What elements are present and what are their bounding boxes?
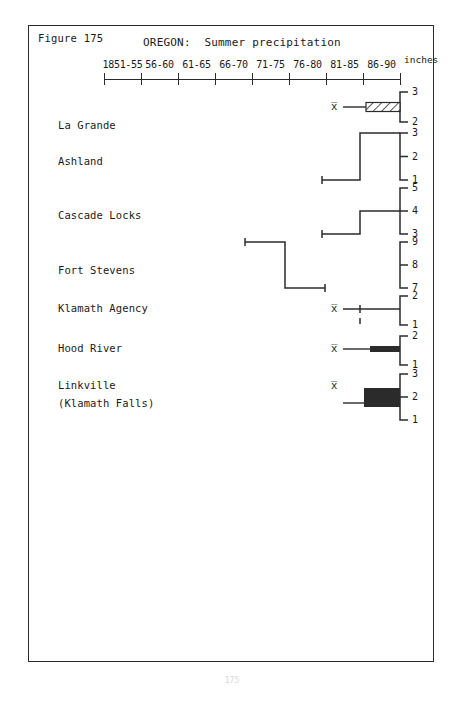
series-label: Cascade Locks [58,210,141,221]
axis-tick-label: 81-85 [324,60,365,70]
scale-value: 4 [412,206,418,216]
scale-value: 9 [412,237,418,247]
scale-value: 1 [412,415,418,425]
mean-marker: x̅ [331,303,337,314]
scale-value: 2 [412,117,418,127]
page-number: 175 [0,676,464,685]
series-label: Linkville [58,380,116,391]
mean-marker: x̅ [331,101,337,112]
axis-tick-label: 76-80 [287,60,328,70]
series-label: Hood River [58,343,122,354]
scale-value: 2 [412,291,418,301]
scale-value: 8 [412,260,418,270]
series-label: Klamath Agency [58,303,148,314]
units-label: inches [404,55,438,65]
figure-page: Figure 175 OREGON: Summer precipitation … [0,0,464,704]
series-label: Fort Stevens [58,265,135,276]
axis-tick [178,73,179,85]
mean-marker: x̅ [331,380,337,391]
series-label: La Grande [58,120,116,131]
series-label: Ashland [58,156,103,167]
axis-tick-label: 86-90 [361,60,402,70]
axis-tick [326,73,327,85]
axis-tick-label: 1851-55 [102,60,143,70]
scale-value: 3 [412,87,418,97]
scale-value: 5 [412,183,418,193]
axis-tick [104,73,105,85]
scale-value: 2 [412,392,418,402]
scale-value: 2 [412,152,418,162]
axis-tick [215,73,216,85]
axis-tick [252,73,253,85]
axis-tick-label: 56-60 [139,60,180,70]
scale-value: 3 [412,128,418,138]
figure-label: Figure 175 [38,33,103,44]
axis-tick [289,73,290,85]
axis-tick [141,73,142,85]
axis-tick [363,73,364,85]
axis-tick-label: 71-75 [250,60,291,70]
series-label-secondary: (Klamath Falls) [58,398,154,409]
scale-value: 3 [412,369,418,379]
scale-value: 2 [412,331,418,341]
scale-value: 1 [412,320,418,330]
axis-tick [400,73,401,85]
axis-tick-label: 66-70 [213,60,254,70]
mean-marker: x̅ [331,343,337,354]
axis-tick-label: 61-65 [176,60,217,70]
chart-title: OREGON: Summer precipitation [143,37,341,48]
